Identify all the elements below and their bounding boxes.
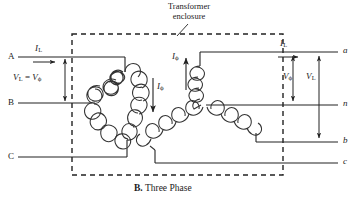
enclosure-note-line2: enclosure (173, 11, 206, 21)
terminal-b-label: b (343, 136, 348, 145)
secondary-line-current-sub: L (283, 41, 287, 48)
terminal-B-label: B (8, 98, 14, 107)
secondary-line-voltage-label: VL (306, 72, 316, 82)
primary-voltage-equals: = (23, 72, 33, 82)
enclosure-note-line1: Transformer (168, 1, 210, 11)
primary-phase-current-sub: ϕ (160, 84, 164, 92)
figure-caption: B. Three Phase (134, 184, 192, 194)
terminal-C-label: C (8, 152, 14, 161)
delta-winding (85, 63, 150, 149)
secondary-phase-voltage-label: Vϕ (283, 72, 292, 82)
terminal-c-label: c (343, 157, 347, 166)
primary-voltage-sub2: ϕ (38, 75, 42, 83)
primary-voltage-v1: V (13, 72, 19, 82)
secondary-line-c (155, 150, 338, 163)
enclosure-note: Transformer enclosure (150, 2, 228, 22)
primary-phase-current-label: Iϕ (157, 82, 164, 92)
secondary-line-b (256, 133, 338, 142)
wye-winding (136, 66, 261, 150)
secondary-line-voltage-base: V (306, 71, 312, 81)
figure-canvas: Transformer enclosure A B C a n b c IL V… (0, 0, 356, 205)
primary-voltage-label: VL = Vϕ (13, 73, 41, 83)
primary-line-current-sub: L (38, 46, 42, 53)
terminal-n-label: n (343, 99, 348, 108)
secondary-phase-current-sub: ϕ (175, 54, 179, 62)
secondary-phase-voltage-sub: ϕ (289, 74, 293, 82)
figure-caption-text: Three Phase (145, 183, 192, 193)
figure-caption-label: B. (134, 183, 143, 193)
terminal-a-label: a (343, 46, 348, 55)
terminal-A-label: A (8, 52, 15, 61)
secondary-line-a (200, 52, 338, 66)
circuit-diagram (0, 0, 356, 205)
secondary-line-current-label: IL (280, 39, 287, 49)
primary-line-current-label: IL (35, 44, 42, 54)
secondary-line-voltage-sub: L (312, 74, 316, 81)
secondary-phase-current-label: Iϕ (172, 52, 179, 62)
